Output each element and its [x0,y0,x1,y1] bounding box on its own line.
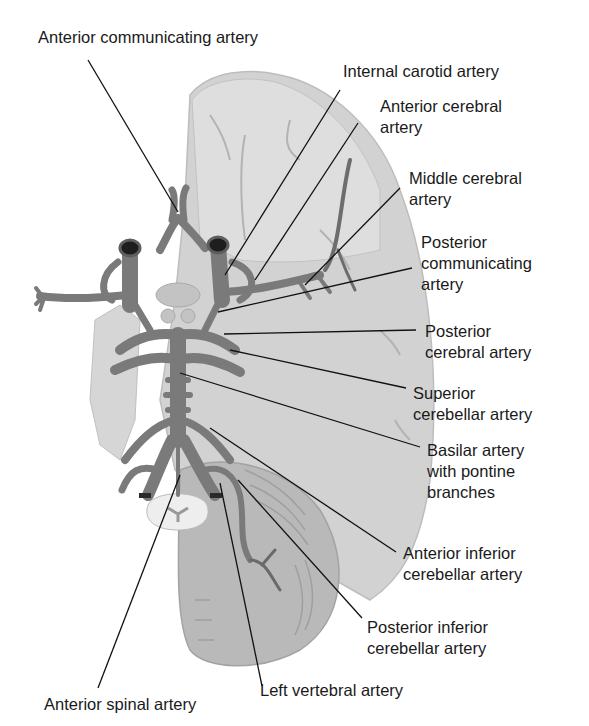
medulla-section [147,494,208,530]
label-posterior-cerebral-artery: Posterior cerebral artery [425,321,531,363]
pituitary-stalk [156,283,200,307]
leader-anterior-spinal [98,475,180,688]
label-anterior-inferior-cerebellar-artery: Anterior inferior cerebellar artery [403,543,522,585]
label-anterior-spinal-artery: Anterior spinal artery [44,694,196,715]
left-temporal-region [90,305,140,460]
label-anterior-cerebral-artery: Anterior cerebral artery [380,96,502,138]
label-internal-carotid-artery: Internal carotid artery [343,61,499,82]
leader-anterior-communicating [88,60,178,212]
left-vertebral-end [210,493,222,498]
label-left-vertebral-artery: Left vertebral artery [260,680,403,701]
right-carotid-lumen [208,237,228,253]
label-basilar-artery: Basilar artery with pontine branches [427,440,524,503]
label-anterior-communicating-artery: Anterior communicating artery [38,27,258,48]
label-posterior-communicating-artery: Posterior communicating artery [421,232,532,295]
mammillary-body-right [181,309,195,323]
right-vertebral-end [139,493,151,498]
left-carotid-lumen [120,240,140,256]
mammillary-body-left [161,309,175,323]
label-posterior-inferior-cerebellar-artery: Posterior inferior cerebellar artery [367,617,488,659]
label-middle-cerebral-artery: Middle cerebral artery [409,168,522,210]
frontal-lobe [192,79,380,262]
label-superior-cerebellar-artery: Superior cerebellar artery [413,383,532,425]
circle-of-willis-diagram: Anterior communicating artery Internal c… [0,0,589,726]
